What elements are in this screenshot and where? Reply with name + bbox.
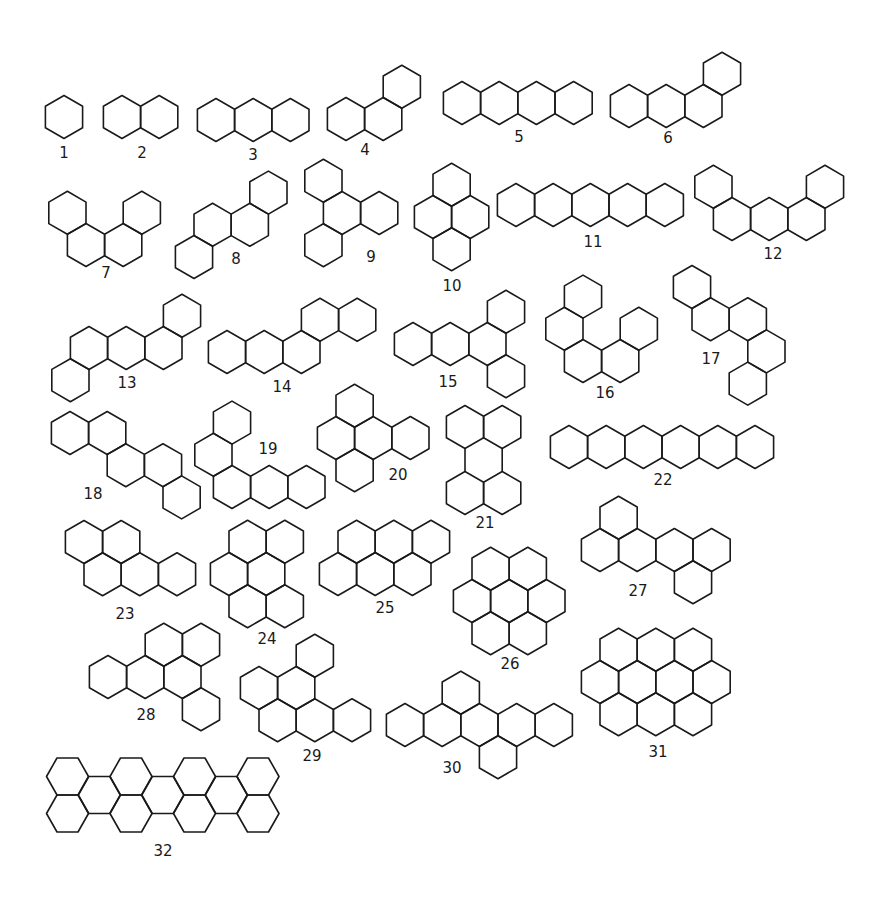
hexagon-ring: [452, 196, 489, 239]
hexagon-ring: [433, 228, 470, 271]
hexagon-ring: [581, 529, 618, 572]
hexagon-ring: [144, 444, 181, 487]
molecule-29: 29: [240, 634, 370, 764]
structure-number-label: 1: [59, 144, 69, 162]
hexagon-ring: [229, 520, 266, 563]
hexagon-ring: [361, 192, 398, 235]
hexagon-ring: [484, 406, 521, 449]
hexagon-ring: [305, 159, 342, 202]
hexagon-ring: [52, 359, 89, 402]
hexagon-ring: [288, 466, 325, 509]
molecule-21: 21: [446, 406, 520, 532]
hexagon-ring: [339, 298, 376, 341]
hexagon-ring: [535, 184, 572, 227]
hexagon-ring: [432, 323, 469, 366]
structure-number-label: 21: [475, 514, 494, 532]
hexagon-ring: [498, 704, 535, 747]
molecule-28: 28: [89, 623, 219, 730]
hexagon-ring: [175, 236, 212, 279]
hexagon-ring: [210, 553, 247, 596]
structure-number-label: 4: [360, 141, 370, 159]
hexagon-ring: [509, 547, 546, 590]
hexagon-ring: [620, 307, 657, 350]
structure-number-label: 27: [628, 582, 647, 600]
hexagon-ring: [70, 327, 107, 370]
structure-number-label: 12: [763, 245, 782, 263]
hexagon-ring: [748, 330, 785, 373]
hexagon-ring: [65, 521, 102, 564]
structure-number-label: 9: [366, 248, 376, 266]
hexagon-ring: [546, 307, 583, 350]
hexagon-ring: [283, 331, 320, 374]
structure-number-label: 32: [153, 842, 172, 860]
hexagon-ring: [357, 553, 394, 596]
structure-number-label: 23: [115, 605, 134, 623]
hexagon-ring: [392, 417, 429, 460]
hexagon-ring: [182, 623, 219, 666]
hexagon-ring: [248, 553, 285, 596]
hexagon-ring: [699, 426, 736, 469]
hexagon-ring: [105, 224, 142, 267]
hexagon-ring: [461, 704, 498, 747]
hexagon-ring: [729, 298, 766, 341]
hexagon-ring: [656, 529, 693, 572]
molecule-19: 19: [195, 401, 325, 508]
hexagon-ring: [751, 198, 788, 241]
hexagon-ring: [572, 184, 609, 227]
hexagon-ring: [692, 298, 729, 341]
structure-number-label: 31: [648, 743, 667, 761]
hexagon-ring: [317, 417, 354, 460]
hexagon-ring: [497, 184, 534, 227]
structure-number-label: 6: [663, 129, 673, 147]
structure-number-label: 30: [442, 759, 461, 777]
hexagon-ring: [693, 529, 730, 572]
hexagon-ring: [806, 165, 843, 208]
hexagon-ring: [729, 362, 766, 405]
hexagon-ring: [472, 612, 509, 655]
structure-number-label: 3: [248, 146, 258, 164]
hexagon-ring: [84, 553, 121, 596]
hexagon-ring: [424, 704, 461, 747]
hexagon-ring: [446, 406, 483, 449]
hexagon-ring: [259, 699, 296, 742]
hexagon-ring: [272, 99, 309, 142]
hexagon-ring: [266, 520, 303, 563]
hexagon-ring: [600, 628, 637, 671]
hexagon-ring: [693, 661, 730, 704]
structure-number-label: 25: [375, 599, 394, 617]
hexagon-ring: [89, 656, 126, 699]
hexagon-ring: [484, 472, 521, 515]
molecule-26: 26: [453, 547, 565, 672]
hexagon-ring: [487, 290, 524, 333]
hexagon-ring: [472, 547, 509, 590]
hexagon-ring: [251, 466, 288, 509]
molecule-24: 24: [210, 520, 303, 647]
hexagon-ring: [713, 198, 750, 241]
structure-number-label: 2: [137, 144, 147, 162]
hexagon-ring: [637, 693, 674, 736]
hexagon-ring: [67, 224, 104, 267]
hexagon-ring: [788, 198, 825, 241]
structure-number-label: 26: [500, 655, 519, 673]
hexagon-ring: [673, 266, 710, 309]
hexagon-ring: [685, 85, 722, 128]
hexagon-ring: [250, 171, 287, 214]
molecule-12: 12: [695, 165, 844, 262]
hexagon-ring: [301, 298, 338, 341]
hexagon-ring: [296, 699, 333, 742]
hexagon-ring: [163, 476, 200, 519]
molecule-6: 6: [610, 52, 740, 146]
hexagon-ring: [518, 82, 555, 125]
structure-number-label: 22: [653, 471, 672, 489]
molecule-13: 13: [52, 294, 201, 401]
hexagon-ring: [564, 275, 601, 318]
molecule-18: 18: [51, 412, 200, 519]
hexagon-ring: [231, 203, 268, 246]
molecule-31: 31: [581, 628, 730, 760]
hexagon-ring: [213, 401, 250, 444]
hexagon-ring: [141, 96, 178, 139]
hexagon-ring: [555, 82, 592, 125]
hexagon-ring: [229, 585, 266, 628]
hexagon-ring: [394, 553, 431, 596]
hexagon-ring: [240, 667, 277, 710]
